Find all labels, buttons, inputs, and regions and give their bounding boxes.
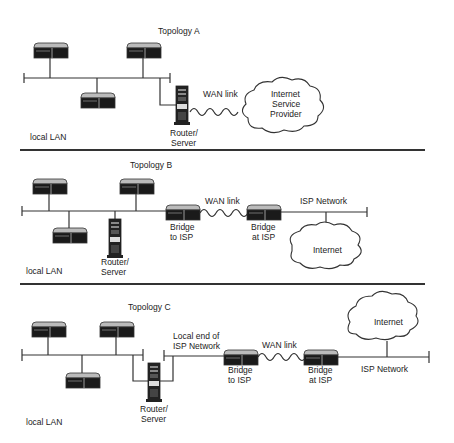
cloud-label: Internet [313,245,342,255]
bridge-label: Bridge [228,365,253,375]
router-label: Router/ [170,128,199,138]
isp-network-label: ISP Network [300,196,348,206]
bridge-at-isp-icon [304,350,338,365]
cloud-label: Provider [270,109,302,119]
router-label: Server [101,267,126,277]
bridge-to-isp-icon [166,205,200,220]
workstation-icon [32,322,66,337]
bridge-label: Bridge [251,222,276,232]
workstation-icon [100,322,134,337]
lan-label: local LAN [26,266,62,276]
workstation-icon [33,179,67,194]
workstation-icon [81,93,115,108]
cloud-label: Internet [374,317,403,327]
topology-c: Topology C Router/ Server Local end of I… [22,291,429,427]
lan-label: local LAN [30,132,66,142]
internet-cloud-icon [348,291,418,339]
wan-label: WAN link [203,89,238,99]
bridge-label: to ISP [228,375,251,385]
lan-label: local LAN [26,417,62,427]
router-server-icon [107,219,123,258]
topology-b: Topology B Router/ Server Bridge to ISP … [22,160,367,277]
workstation-icon [34,43,68,58]
cloud-label: Internet [271,89,300,99]
workstation-icon [66,373,100,388]
router-label: Server [171,138,196,148]
local-end-label: Local end of [173,331,220,341]
wan-link [258,354,306,361]
local-end-label: ISP Network [173,341,221,351]
wan-label: WAN link [262,340,297,350]
topology-a-title: Topology A [158,26,200,36]
router-server-icon [146,363,162,402]
bridge-at-isp-icon [247,205,281,220]
bridge-label: at ISP [252,232,275,242]
bridge-label: at ISP [309,375,332,385]
bridge-to-isp-icon [224,350,258,365]
topology-a: Topology A Router/ Server WAN link Inter… [24,26,324,148]
topology-b-title: Topology B [130,160,172,170]
router-label: Router/ [101,257,130,267]
cloud-label: Service [272,99,301,109]
workstation-icon [127,43,161,58]
router-label: Server [141,414,166,424]
workstation-icon [120,179,154,194]
workstation-icon [53,228,87,243]
isp-network-label: ISP Network [361,364,409,374]
wan-link [200,210,248,217]
network-topology-diagram: Topology A Router/ Server WAN link Inter… [0,0,454,443]
router-label: Router/ [140,404,169,414]
wan-link [190,109,238,116]
wan-label: WAN link [205,196,240,206]
bridge-label: Bridge [170,222,195,232]
bridge-label: Bridge [308,365,333,375]
topology-c-title: Topology C [128,302,171,312]
router-server-icon [174,86,190,125]
bridge-label: to ISP [170,232,193,242]
